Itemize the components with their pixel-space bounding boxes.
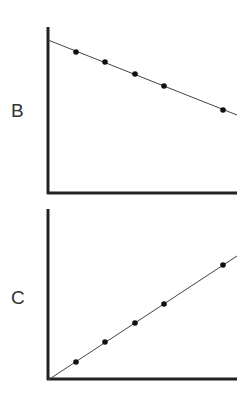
c-point: [132, 320, 138, 326]
c-point: [102, 339, 108, 345]
b-point: [161, 83, 167, 89]
b-point: [220, 107, 226, 113]
c-point: [220, 262, 226, 268]
chart-c: [47, 209, 237, 380]
b-point: [73, 49, 79, 55]
charts-canvas: [0, 0, 248, 402]
b-point: [102, 59, 108, 65]
chart-b: [47, 27, 237, 194]
c-point: [161, 301, 167, 307]
b-point: [132, 71, 138, 77]
c-point: [73, 359, 79, 365]
